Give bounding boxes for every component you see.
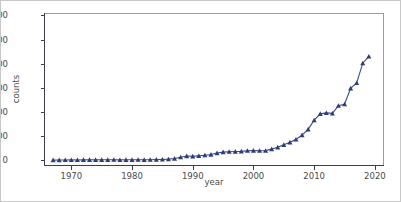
x-axis-label: year (205, 177, 224, 187)
y-axis-label: counts (11, 75, 21, 103)
y-tick-label: 0 (3, 155, 8, 165)
plot-area: 197019801990200020102020 (44, 13, 384, 166)
data-point-marker (342, 102, 347, 107)
x-tick-label: 2000 (243, 171, 265, 181)
data-point-marker (287, 140, 292, 145)
x-tick-mark (71, 166, 72, 170)
data-point-marker (354, 80, 359, 85)
x-tick-label: 1970 (60, 171, 82, 181)
data-line (53, 56, 369, 160)
line-series-counts (44, 13, 384, 166)
y-tick-label: 1500 (0, 83, 8, 93)
x-tick-label: 2020 (364, 171, 386, 181)
y-tick-label: 500 (0, 131, 8, 141)
x-tick-mark (132, 166, 133, 170)
y-tick-label: 2000 (0, 59, 8, 69)
y-tick-label: 1000 (0, 107, 8, 117)
x-tick-mark (375, 166, 376, 170)
x-tick-mark (193, 166, 194, 170)
x-tick-mark (314, 166, 315, 170)
chart-figure: counts year 197019801990200020102020 050… (0, 0, 401, 202)
x-tick-label: 2010 (303, 171, 325, 181)
x-tick-mark (253, 166, 254, 170)
data-point-marker (366, 54, 371, 59)
y-tick-label: 2500 (0, 35, 8, 45)
x-tick-label: 1990 (182, 171, 204, 181)
y-tick-label: 3000 (0, 10, 8, 20)
x-tick-label: 1980 (121, 171, 143, 181)
